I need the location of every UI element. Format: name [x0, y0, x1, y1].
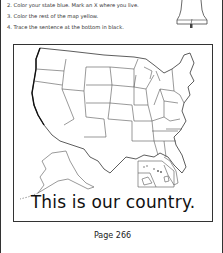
page-number: Page 266 [1, 231, 223, 240]
instruction-4: 4. Trace the sentence at the bottom in b… [7, 24, 124, 30]
worksheet-page: 2. Color your state blue. Mark an X wher… [0, 0, 223, 253]
liberty-bell-icon [173, 0, 211, 30]
map-frame: This is our country. [13, 44, 213, 222]
trace-sentence: This is our country. [14, 192, 212, 212]
instruction-2: 2. Color your state blue. Mark an X wher… [7, 2, 139, 8]
instruction-3: 3. Color the rest of the map yellow. [7, 13, 98, 19]
